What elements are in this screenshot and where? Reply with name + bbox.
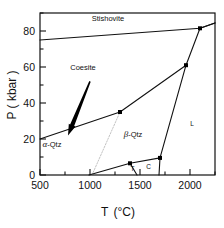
data-point-marker [118,110,122,114]
phase-diagram-figure: 500100015002000 020406080 StishoviteCoes… [0,0,224,228]
y-axis-title: P ( kbar ) [5,70,19,119]
phase-label-tridymite: T [131,165,135,172]
y-axis-tick-labels: 020406080 [23,25,35,181]
phase-label-beta-quartz: β-Qtz [123,129,143,139]
y-tick-label: 60 [23,61,35,73]
x-tick-label: 1500 [128,179,152,191]
x-axis-title: T(°C) [101,205,135,219]
phase-label-coesite: Coesite [70,63,95,72]
plot-frame [40,13,215,175]
phase-diagram-canvas: 500100015002000 020406080 StishoviteCoes… [0,0,224,228]
phase-label-cristobalite: C [146,163,151,170]
x-tick-label: 500 [31,179,49,191]
y-tick-label: 20 [23,133,35,145]
y-tick-label: 80 [23,25,35,37]
phase-label-alpha-quartz: α-Qtz [43,139,62,149]
x-tick-label: 2000 [178,179,202,191]
data-point-marker [184,63,188,67]
y-tick-label: 40 [23,97,35,109]
data-point-marker [198,26,202,30]
data-point-marker [158,156,162,160]
phase-label-liquid: L [190,120,194,127]
x-tick-label: 1000 [78,179,102,191]
phase-label-stishovite: Stishovite [92,14,125,23]
x-axis-tick-labels: 500100015002000 [31,179,202,191]
y-tick-label: 0 [29,169,35,181]
